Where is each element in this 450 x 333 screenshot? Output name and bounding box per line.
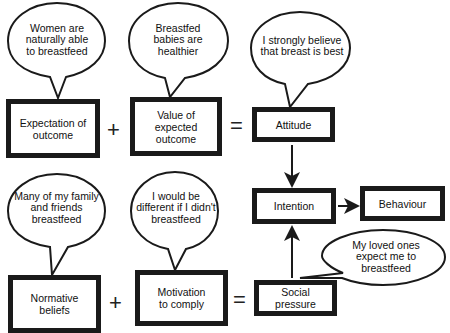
box-motivation-to-comply: Motivation to comply: [135, 270, 228, 326]
bubble-text-social: My loved ones expect me to breastfeed: [345, 236, 427, 278]
box-attitude: Attitude: [252, 107, 335, 142]
box-behaviour: Behaviour: [360, 186, 445, 221]
bubble-text-motivation: I would be different if I didn't breastf…: [134, 184, 218, 232]
box-intention: Intention: [252, 188, 336, 224]
plus-operator-bottom: +: [109, 292, 122, 314]
box-value-of-expected-outcome: Value of expected outcome: [130, 97, 222, 156]
equals-operator-bottom: =: [233, 289, 246, 311]
plus-operator-top: +: [107, 119, 120, 141]
equals-operator-top: =: [230, 115, 243, 137]
box-expectation-of-outcome: Expectation of outcome: [6, 99, 100, 158]
bubble-text-attitude: I strongly believe that breast is best: [258, 26, 346, 66]
box-social-pressure: Social pressure: [254, 280, 337, 316]
box-normative-beliefs: Normative beliefs: [8, 275, 101, 333]
bubble-text-value: Breastfed babies are healthier: [145, 14, 211, 66]
bubble-text-normative: Many of my family and friends breastfeed: [10, 184, 103, 232]
bubble-text-expectation: Women are naturally able to breastfeed: [22, 14, 92, 66]
